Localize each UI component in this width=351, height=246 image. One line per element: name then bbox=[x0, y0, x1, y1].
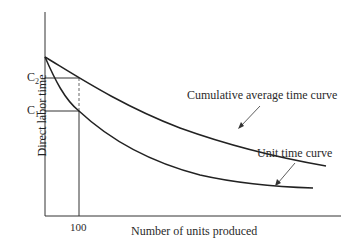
c1-label-main: C bbox=[27, 103, 35, 117]
cum-curve-annotation: Cumulative average time curve bbox=[187, 88, 337, 103]
cum-curve-arrowhead bbox=[238, 122, 244, 129]
unit-curve-arrow bbox=[278, 163, 295, 183]
unit-curve-annotation: Unit time curve bbox=[257, 146, 332, 161]
x-tick-100: 100 bbox=[70, 221, 87, 233]
c1-label: C1 bbox=[27, 103, 39, 119]
c2-label: C2 bbox=[27, 70, 39, 86]
c1-label-sub: 1 bbox=[35, 110, 39, 119]
c2-label-sub: 2 bbox=[35, 77, 39, 86]
x-axis-label: Number of units produced bbox=[131, 224, 257, 239]
cum-curve-arrow bbox=[241, 106, 260, 126]
chart-plot bbox=[0, 0, 351, 246]
c2-label-main: C bbox=[27, 70, 35, 84]
unit-time-curve bbox=[45, 57, 313, 188]
